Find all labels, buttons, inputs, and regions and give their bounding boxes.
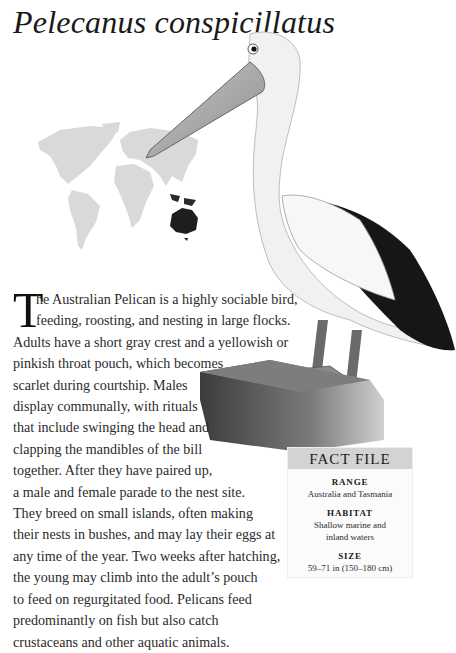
- fact-label: RANGE: [288, 477, 412, 488]
- fact-value: 59–71 in (150–180 cm): [288, 562, 412, 574]
- article-line: feeding, roosting, and nesting in large …: [13, 310, 283, 331]
- article-line: the young may climb into the adult’s pou…: [13, 567, 283, 588]
- fact-value: Shallow marine and: [288, 519, 412, 531]
- fact-value: Australia and Tasmania: [288, 488, 412, 500]
- map-north-america: [38, 126, 118, 184]
- article-line: clapping the mandibles of the bill: [13, 439, 283, 460]
- article-line: that include swinging the head and: [13, 417, 283, 438]
- article-line: together. After they have paired up,: [13, 460, 283, 481]
- fact-habitat: HABITAT Shallow marine and inland waters: [288, 508, 412, 543]
- article-body: he Australian Pelican is a highly sociab…: [13, 289, 283, 653]
- fact-value: inland waters: [288, 531, 412, 543]
- article-line: a male and female parade to the nest sit…: [13, 482, 283, 503]
- fact-size: SIZE 59–71 in (150–180 cm): [288, 551, 412, 574]
- fact-label: HABITAT: [288, 508, 412, 519]
- article-line: scarlet during courtship. Males: [13, 375, 283, 396]
- fact-file-heading: FACT FILE: [288, 448, 412, 469]
- article-line: predominantly on fish but also catch: [13, 610, 283, 631]
- pelican-bill: [146, 62, 265, 158]
- article-line: he Australian Pelican is a highly sociab…: [13, 289, 283, 310]
- article-line: They breed on small islands, often makin…: [13, 503, 283, 524]
- fact-label: SIZE: [288, 551, 412, 562]
- fact-file-box: FACT FILE RANGE Australia and Tasmania H…: [287, 447, 413, 578]
- article-line: crustaceans and other aquatic animals.: [13, 632, 283, 653]
- fact-range: RANGE Australia and Tasmania: [288, 477, 412, 500]
- article-line: any time of the year. Two weeks after ha…: [13, 546, 283, 567]
- map-south-america: [68, 190, 100, 250]
- article-line: pinkish throat pouch, which becomes: [13, 353, 283, 374]
- article-line: their nests in bushes, and may lay their…: [13, 524, 283, 545]
- article-line: Adults have a short gray crest and a yel…: [13, 332, 283, 353]
- article-line: to feed on regurgitated food. Pelicans f…: [13, 589, 283, 610]
- article-line: display communally, with rituals: [13, 396, 283, 417]
